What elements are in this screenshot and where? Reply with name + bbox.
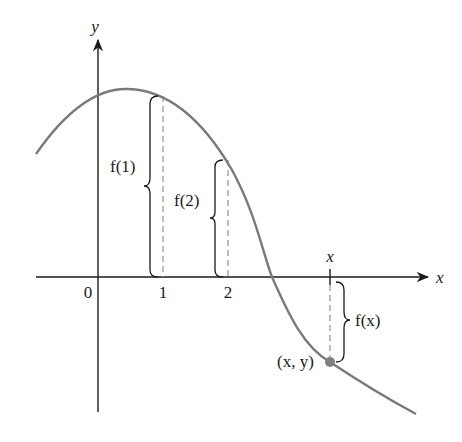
f2-label: f(2)	[174, 191, 199, 210]
tick-label-2: 2	[224, 283, 233, 302]
y-axis-label: y	[89, 17, 99, 36]
function-curve	[36, 89, 416, 414]
x-axis-label: x	[435, 268, 444, 287]
brace-fx	[336, 282, 350, 362]
brace-f2	[210, 160, 223, 277]
point-label: (x, y)	[277, 352, 314, 371]
function-graph: y x 0 1 2 x f(1) f(2) f(x) (x, y)	[0, 0, 462, 442]
fx-label: f(x)	[355, 311, 380, 330]
tick-label-1: 1	[159, 283, 168, 302]
f1-label: f(1)	[110, 157, 135, 176]
x-point-tick-label: x	[325, 247, 334, 266]
brace-f1	[144, 96, 158, 277]
point-marker	[325, 357, 335, 367]
origin-label: 0	[84, 283, 93, 302]
